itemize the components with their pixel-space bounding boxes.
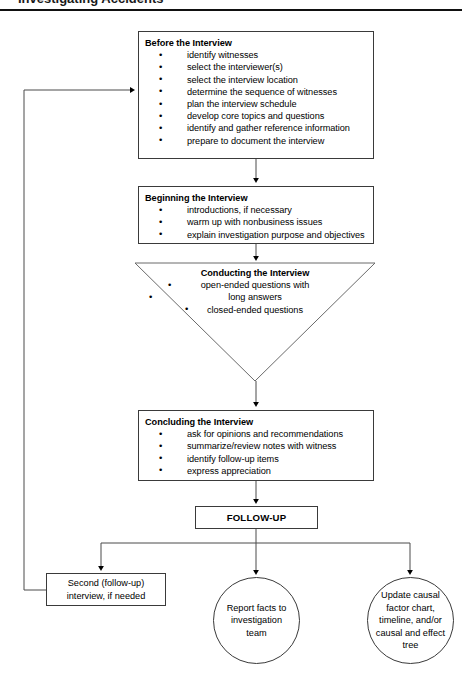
bullet-list-concluding: ask for opinions and recommendations sum… bbox=[145, 428, 369, 477]
list-item: closed-ended questions bbox=[135, 304, 375, 316]
list-item: select the interview location bbox=[145, 74, 369, 86]
node-report-facts-to-investigation-team[interactable]: Report facts to investigation team bbox=[213, 577, 300, 664]
node-second-followup-interview[interactable]: Second (follow-up) interview, if needed bbox=[46, 573, 166, 606]
node-concluding-the-interview[interactable]: Concluding the Interview ask for opinion… bbox=[138, 410, 374, 481]
header-divider-rule bbox=[0, 9, 462, 11]
list-item: warm up with nonbusiness issues bbox=[145, 216, 369, 228]
bullet-list-beginning: introductions, if necessary warm up with… bbox=[145, 204, 369, 241]
page-header-text: Investigating Accidents bbox=[18, 0, 163, 6]
list-item: prepare to document the interview bbox=[145, 135, 369, 147]
list-item: plan the interview schedule bbox=[145, 98, 369, 110]
update-causal-line-2: factor chart, bbox=[386, 603, 435, 613]
list-item: select the interviewer(s) bbox=[145, 61, 369, 73]
list-item: ask for opinions and recommendations bbox=[145, 428, 369, 440]
report-facts-line-2: investigation bbox=[231, 615, 282, 625]
report-facts-line-1: Report facts to bbox=[227, 603, 287, 613]
list-item: summarize/review notes with witness bbox=[145, 440, 369, 452]
bullet-list-before: identify witnesses select the interviewe… bbox=[145, 49, 369, 147]
node-title-beginning: Beginning the Interview bbox=[145, 192, 369, 204]
update-causal-line-5: tree bbox=[403, 640, 419, 650]
list-item: identify witnesses bbox=[145, 49, 369, 61]
update-causal-line-4: causal and effect bbox=[376, 628, 445, 638]
update-causal-line-1: Update causal bbox=[381, 590, 440, 600]
list-item: develop core topics and questions bbox=[145, 110, 369, 122]
node-before-the-interview[interactable]: Before the Interview identify witnesses … bbox=[138, 31, 374, 159]
node-title-before: Before the Interview bbox=[145, 37, 369, 49]
list-item: identify follow-up items bbox=[145, 453, 369, 465]
node-label-report-facts: Report facts to investigation team bbox=[221, 602, 293, 639]
conducting-text-block: Conducting the Interview open-ended ques… bbox=[135, 267, 375, 316]
node-label-second-interview: Second (follow-up) interview, if needed bbox=[67, 577, 146, 602]
list-item: express appreciation bbox=[145, 465, 369, 477]
node-beginning-the-interview[interactable]: Beginning the Interview introductions, i… bbox=[138, 186, 374, 244]
node-title-conducting: Conducting the Interview bbox=[135, 267, 375, 279]
node-label-update-causal: Update causal factor chart, timeline, an… bbox=[373, 589, 448, 651]
flowchart-canvas: Investigating Accidents bbox=[0, 0, 462, 683]
node-follow-up[interactable]: FOLLOW-UP bbox=[195, 506, 318, 529]
node-update-causal-factor-chart[interactable]: Update causal factor chart, timeline, an… bbox=[367, 577, 454, 664]
connector-feedback-loop bbox=[24, 90, 131, 590]
node-title-follow-up: FOLLOW-UP bbox=[227, 512, 287, 523]
list-item: explain investigation purpose and object… bbox=[145, 229, 369, 241]
report-facts-line-3: team bbox=[246, 628, 266, 638]
page-header-partial-text: Investigating Accidents bbox=[0, 0, 462, 9]
list-item: open-ended questions with bbox=[135, 279, 375, 291]
second-interview-line-2: interview, if needed bbox=[67, 591, 146, 601]
node-title-concluding: Concluding the Interview bbox=[145, 416, 369, 428]
list-item: introductions, if necessary bbox=[145, 204, 369, 216]
list-item: identify and gather reference informatio… bbox=[145, 122, 369, 134]
bullet-list-conducting: open-ended questions with long answers c… bbox=[135, 279, 375, 316]
update-causal-line-3: timeline, and/or bbox=[379, 615, 442, 625]
node-conducting-the-interview[interactable]: Conducting the Interview open-ended ques… bbox=[135, 263, 375, 381]
second-interview-line-1: Second (follow-up) bbox=[68, 578, 145, 588]
list-item: determine the sequence of witnesses bbox=[145, 86, 369, 98]
list-item-continuation: long answers bbox=[135, 291, 375, 303]
